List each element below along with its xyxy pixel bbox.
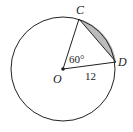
angle-label: 60° — [69, 53, 84, 65]
chord-cd — [79, 19, 116, 62]
label-c: C — [76, 3, 85, 17]
radius-label: 12 — [85, 70, 96, 82]
circle-diagram: C D O 60° 12 — [0, 0, 133, 132]
label-d: D — [117, 55, 127, 69]
center-point — [61, 67, 65, 71]
label-o: O — [53, 72, 62, 86]
